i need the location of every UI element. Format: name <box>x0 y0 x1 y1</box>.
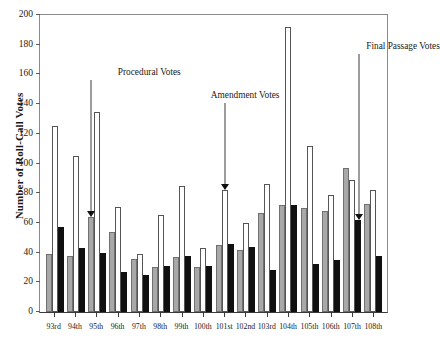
bar-final-passage-votes <box>249 247 255 312</box>
bar-group <box>299 15 320 312</box>
y-tick-label: 180 <box>19 38 33 51</box>
bar-final-passage-votes <box>185 256 191 312</box>
y-tick-label: 140 <box>19 97 33 110</box>
y-tick-label: 120 <box>19 127 33 140</box>
bar-final-passage-votes <box>121 272 127 312</box>
annotation-arrow-head <box>87 211 95 217</box>
annotation-label: Procedural Votes <box>118 67 181 77</box>
x-tick-mark <box>245 313 246 317</box>
x-tick-mark <box>373 313 374 317</box>
y-tick-label: 20 <box>24 275 34 288</box>
x-tick-mark <box>288 313 289 317</box>
x-tick-mark <box>203 313 204 317</box>
bar-final-passage-votes <box>100 253 106 312</box>
bar-final-passage-votes <box>313 264 319 312</box>
annotation-label: Final Passage Votes <box>366 41 440 51</box>
x-axis: 93rd94th95th96th97th98th99th100th101st10… <box>39 313 388 343</box>
x-tick-label: 100th <box>194 322 212 331</box>
annotation-arrow-head <box>355 214 363 220</box>
x-tick-label: 108th <box>364 322 382 331</box>
bar-group <box>44 15 65 312</box>
x-tick-label: 102nd <box>236 322 256 331</box>
bar-final-passage-votes <box>270 270 276 312</box>
x-tick-mark <box>118 313 119 317</box>
x-tick-label: 107th <box>343 322 361 331</box>
y-tick-label: 0 <box>28 305 33 318</box>
x-tick-mark <box>352 313 353 317</box>
x-tick-label: 105th <box>301 322 319 331</box>
plot-area: 020406080100120140160180200 Procedural V… <box>39 14 388 313</box>
y-tick-label: 160 <box>19 67 33 80</box>
bar-final-passage-votes <box>291 205 297 312</box>
bar-group <box>235 15 256 312</box>
annotation-leader-line <box>225 103 226 184</box>
x-tick-label: 98th <box>153 322 167 331</box>
x-tick-mark <box>139 313 140 317</box>
bar-group <box>150 15 171 312</box>
bar-final-passage-votes <box>79 248 85 312</box>
x-tick-mark <box>75 313 76 317</box>
x-tick-label: 103rd <box>258 322 276 331</box>
bar-final-passage-votes <box>164 266 170 312</box>
bar-final-passage-votes <box>376 256 382 312</box>
annotation-arrow-head <box>221 184 229 190</box>
y-tick-label: 100 <box>19 157 33 170</box>
bar-final-passage-votes <box>206 266 212 312</box>
x-tick-mark <box>224 313 225 317</box>
y-tick-label: 40 <box>24 246 34 259</box>
bar-group <box>65 15 86 312</box>
x-tick-label: 104th <box>279 322 297 331</box>
x-tick-mark <box>309 313 310 317</box>
annotation-leader-line <box>359 54 360 214</box>
bar-group <box>278 15 299 312</box>
bar-group <box>257 15 278 312</box>
bar-group <box>87 15 108 312</box>
bar-group <box>129 15 150 312</box>
y-tick-label: 80 <box>24 186 34 199</box>
x-tick-label: 96th <box>111 322 125 331</box>
annotation-label: Amendment Votes <box>211 90 280 100</box>
x-tick-label: 97th <box>132 322 146 331</box>
bar-group <box>108 15 129 312</box>
x-tick-label: 95th <box>89 322 103 331</box>
x-tick-mark <box>182 313 183 317</box>
annotation-leader-line <box>91 80 92 211</box>
bar-groups <box>40 15 387 312</box>
x-tick-mark <box>267 313 268 317</box>
bar-final-passage-votes <box>355 220 361 312</box>
x-tick-mark <box>54 313 55 317</box>
x-tick-label: 93rd <box>47 322 61 331</box>
x-tick-mark <box>331 313 332 317</box>
y-tick-label: 60 <box>24 216 34 229</box>
bar-group <box>193 15 214 312</box>
x-tick-label: 106th <box>322 322 340 331</box>
x-tick-label: 94th <box>68 322 82 331</box>
bar-group <box>342 15 363 312</box>
bar-final-passage-votes <box>143 275 149 312</box>
bar-final-passage-votes <box>228 244 234 312</box>
bar-group <box>172 15 193 312</box>
y-tick-label: 200 <box>19 8 33 21</box>
bar-group <box>320 15 341 312</box>
x-tick-mark <box>96 313 97 317</box>
bar-final-passage-votes <box>334 260 340 312</box>
x-tick-mark <box>160 313 161 317</box>
bar-final-passage-votes <box>58 227 64 312</box>
x-tick-label: 99th <box>175 322 189 331</box>
bar-group <box>363 15 384 312</box>
x-tick-label: 101st <box>216 322 233 331</box>
